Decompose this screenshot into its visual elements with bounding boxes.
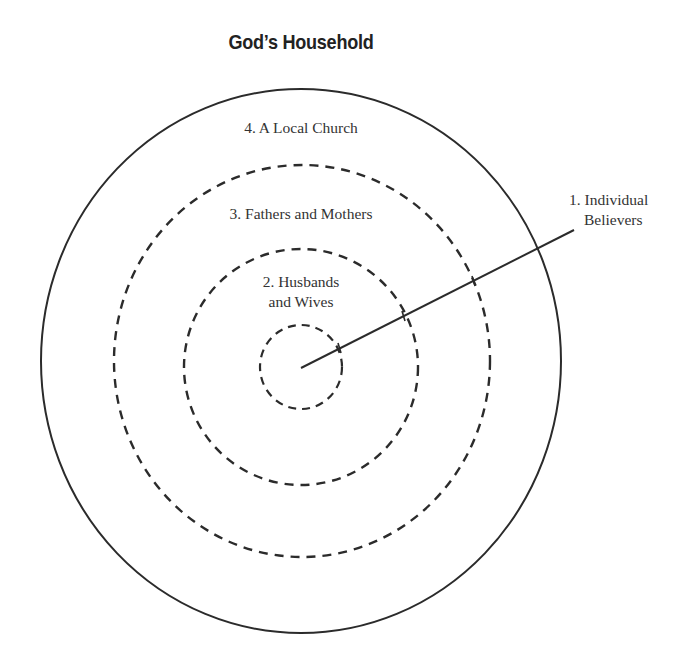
ring-local-church xyxy=(41,89,561,633)
label-local-church-text: 4. A Local Church xyxy=(244,119,358,136)
label-fathers-mothers-text: 3. Fathers and Mothers xyxy=(230,205,373,222)
label-husbands-wives: 2. Husbands and Wives xyxy=(241,272,361,312)
label-husbands-wives-line2: and Wives xyxy=(241,292,361,312)
concentric-circles-diagram xyxy=(0,0,694,655)
label-individual-believers-line1: 1. Individual xyxy=(569,190,689,210)
label-individual-believers-line2: Believers xyxy=(569,210,689,230)
label-individual-believers: 1. Individual Believers xyxy=(569,190,689,230)
label-local-church: 4. A Local Church xyxy=(221,118,381,138)
label-fathers-mothers: 3. Fathers and Mothers xyxy=(201,204,401,224)
label-husbands-wives-line1: 2. Husbands xyxy=(241,272,361,292)
